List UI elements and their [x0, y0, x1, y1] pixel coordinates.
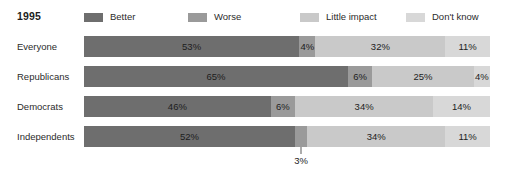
bar-track: 53%4%32%11%: [84, 36, 490, 57]
row-label-republicans: Republicans: [17, 66, 69, 87]
bar-segment-better: 65%: [84, 66, 348, 87]
bar-segment-value: 53%: [182, 36, 201, 57]
bar-segment-better: 46%: [84, 96, 271, 117]
legend-swatch-icon: [406, 13, 425, 22]
bar-segment-value: 4%: [300, 36, 314, 57]
bar-segment-don-t-know: 11%: [445, 126, 490, 147]
bar-segment-value: 46%: [168, 96, 187, 117]
bar-track: 46%6%34%14%: [84, 96, 490, 117]
bar-segment-don-t-know: 11%: [445, 36, 490, 57]
bar-segment-value: 11%: [458, 36, 476, 57]
bar-segment-value: 6%: [276, 96, 290, 117]
bar-segment-value: 6%: [353, 66, 367, 87]
bar-segment-don-t-know: 14%: [433, 96, 490, 117]
bar-segment-value: 52%: [180, 126, 199, 147]
legend-swatch-icon: [188, 13, 207, 22]
chart-legend: BetterWorseLittle impactDon't know: [84, 10, 490, 24]
bar-segment-value: 11%: [458, 126, 476, 147]
legend-item-label: Worse: [214, 10, 241, 24]
row-label-democrats: Democrats: [17, 96, 63, 117]
chart-row: Independents52%3%34%11%: [0, 126, 512, 147]
legend-item-better: Better: [84, 10, 135, 24]
bar-segment-worse: 4%: [299, 36, 315, 57]
page-title: 1995: [17, 10, 41, 22]
bar-segment-little-impact: 32%: [315, 36, 445, 57]
bar-segment-value: 34%: [367, 126, 386, 147]
bar-segment-little-impact: 34%: [307, 126, 445, 147]
legend-swatch-icon: [300, 13, 319, 22]
bar-segment-worse: 6%: [348, 66, 372, 87]
bar-segment-better: 52%: [84, 126, 295, 147]
bar-segment-worse: 3%: [295, 126, 307, 147]
bar-segment-value: 32%: [371, 36, 390, 57]
legend-item-label: Little impact: [326, 10, 377, 24]
legend-item-label: Don't know: [432, 10, 479, 24]
legend-item-don-t-know: Don't know: [406, 10, 479, 24]
bar-segment-better: 53%: [84, 36, 299, 57]
chart-row: Republicans65%6%25%4%: [0, 66, 512, 87]
bar-track: 52%3%34%11%: [84, 126, 490, 147]
bar-segment-value: 14%: [452, 96, 471, 117]
chart-row: Everyone53%4%32%11%: [0, 36, 512, 57]
legend-swatch-icon: [84, 13, 103, 22]
legend-item-worse: Worse: [188, 10, 241, 24]
bar-segment-worse: 6%: [271, 96, 295, 117]
row-label-independents: Independents: [17, 126, 75, 147]
legend-item-little-impact: Little impact: [300, 10, 377, 24]
bar-segment-don-t-know: 4%: [474, 66, 490, 87]
bar-segment-value: 25%: [413, 66, 432, 87]
row-label-everyone: Everyone: [17, 36, 57, 57]
bar-segment-little-impact: 25%: [372, 66, 474, 87]
bar-segment-value: 4%: [475, 66, 489, 87]
bar-segment-value: 34%: [355, 96, 374, 117]
annotation-leader-line: [301, 147, 302, 154]
legend-item-label: Better: [110, 10, 135, 24]
chart-row: Democrats46%6%34%14%: [0, 96, 512, 117]
bar-segment-little-impact: 34%: [295, 96, 433, 117]
stacked-bar-chart: 1995 BetterWorseLittle impactDon't know …: [0, 0, 512, 179]
bar-segment-value: 65%: [206, 66, 225, 87]
bar-track: 65%6%25%4%: [84, 66, 490, 87]
